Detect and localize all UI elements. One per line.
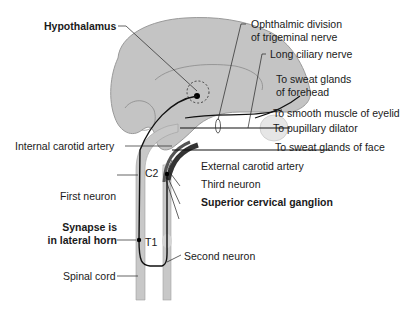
label-ophthalmic-line2: of trigeminal nerve	[251, 31, 337, 43]
label-second-neuron: Second neuron	[184, 250, 255, 262]
label-t1: T1	[145, 236, 157, 248]
label-ophthalmic-line1: Ophthalmic division	[251, 18, 342, 30]
label-third-neuron: Third neuron	[201, 178, 261, 190]
label-synapse-line1: Synapse is	[60, 221, 117, 233]
label-first-neuron: First neuron	[60, 190, 116, 202]
label-synapse-line2: in lateral horn	[40, 234, 117, 246]
spinal-cord	[136, 124, 178, 300]
label-spinal-cord: Spinal cord	[63, 270, 116, 282]
label-sweat-forehead-line1: To sweat glands	[276, 73, 351, 85]
label-hypothalamus: Hypothalamus	[44, 20, 116, 32]
label-internal-carotid: Internal carotid artery	[15, 140, 114, 152]
label-superior-cervical-ganglion: Superior cervical ganglion	[201, 196, 333, 208]
sympathetic-pathway-diagram	[0, 0, 412, 309]
ganglion-dot	[165, 172, 169, 176]
label-smooth-muscle: To smooth muscle of eyelid	[273, 107, 400, 119]
label-external-carotid: External carotid artery	[201, 160, 304, 172]
label-sweat-forehead-line2: of forehead	[276, 86, 329, 98]
label-pupillary: To pupillary dilator	[273, 122, 358, 134]
label-c2: C2	[145, 167, 158, 179]
label-sweat-face: To sweat glands of face	[275, 141, 385, 153]
ophthalmic-nerve-ring	[216, 119, 221, 133]
synapse-dot	[137, 238, 141, 242]
label-long-ciliary: Long ciliary nerve	[270, 48, 352, 60]
